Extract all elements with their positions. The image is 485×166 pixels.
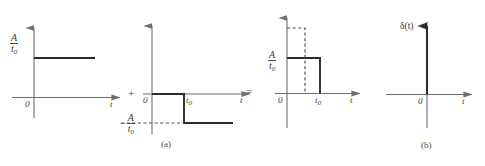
panel-2-y-axis-label: − A t0 — [120, 113, 135, 134]
panel-1-x-axis-label: t — [110, 100, 113, 109]
panel-3-x-axis-label: t — [350, 96, 353, 105]
panel-3-axes — [275, 18, 360, 128]
panel-3-y-axis-label: A t0 — [268, 50, 276, 71]
panel-2-y-label-denominator: t0 — [127, 124, 135, 134]
panel-2-y-label-sign: − — [120, 119, 127, 129]
caption-b: (b) — [421, 141, 432, 150]
caption-a: (a) — [161, 140, 171, 149]
panel-4-origin-label: 0 — [418, 97, 423, 106]
panel-2-x-axis-label: t — [240, 96, 243, 105]
panel-2-negative-step-line — [152, 94, 233, 123]
panel-2-tick-t0: t0 — [186, 96, 192, 105]
panel-2-origin-label: 0 — [143, 96, 148, 105]
panel-3-pulse-dashed-limit — [287, 28, 305, 94]
panel-3-tick-t0: t0 — [315, 96, 321, 105]
panel-4-y-axis-label: δ(t) — [400, 22, 413, 32]
operator-equals: = — [246, 86, 252, 97]
operator-plus: + — [128, 88, 134, 99]
panel-1-y-label-denominator: t0 — [10, 44, 18, 54]
panel-3-origin-label: 0 — [278, 96, 283, 105]
panel-3-y-label-denominator: t0 — [268, 61, 276, 71]
panel-1-origin-label: 0 — [25, 100, 30, 109]
panel-2-axes — [143, 26, 250, 134]
panel-4-axes — [386, 22, 472, 128]
panel-3-pulse-solid — [287, 58, 320, 94]
panel-4-x-axis-label: t — [462, 97, 465, 106]
panel-1-y-axis-label: A t0 — [10, 33, 18, 54]
panel-3-series — [287, 28, 320, 94]
figure-container: A t0 0 t + − A t0 0 t0 t = A t0 0 t0 t δ… — [0, 0, 485, 166]
panel-2-series-negstep — [121, 94, 233, 123]
